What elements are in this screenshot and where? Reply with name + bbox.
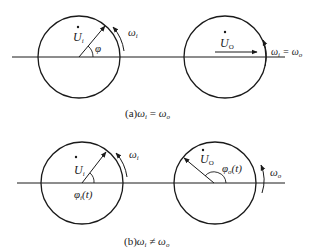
rotation-label-b-right: ωo — [270, 166, 282, 180]
angle-label-b-left: φi(t) — [74, 188, 93, 202]
phasor-label-b-left: Ui — [74, 163, 85, 178]
rotation-arrow-b-right — [261, 165, 264, 193]
phasor-label-b-right: UO — [200, 152, 214, 167]
phasor-label-a-right: UO — [220, 36, 234, 51]
phasor-dot-a-right — [224, 31, 226, 33]
phasor-label-a-left: Ui — [73, 30, 84, 45]
phasor-diagram: Ui φ ωi UO ωi = ωo (a)ωi = ωo Ui φi(t) ω… — [0, 0, 311, 252]
caption-a: (a)ωi = ωo — [125, 107, 170, 121]
angle-label-a-left: φ — [95, 42, 101, 54]
phasor-dot-a-left — [77, 26, 79, 28]
rotation-label-b-left: ωi — [129, 148, 139, 162]
phasor-dot-b-left — [75, 156, 77, 158]
phasor-dot-b-right — [202, 149, 204, 151]
caption-b: (b)ωi ≠ ωo — [124, 235, 170, 249]
rotation-label-a-left: ωi — [128, 26, 138, 40]
angle-arc-a-left — [88, 46, 93, 57]
angle-label-b-right: φo(t) — [222, 162, 242, 176]
angle-arc-b-left — [90, 173, 94, 183]
